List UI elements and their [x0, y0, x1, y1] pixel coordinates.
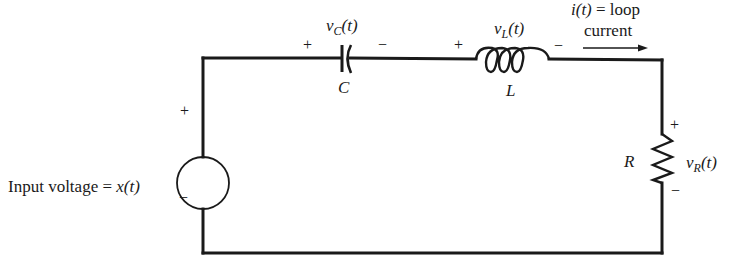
wire-top-middle — [350, 58, 476, 59]
inductor-icon — [476, 48, 549, 72]
inductor-name: L — [505, 81, 515, 100]
current-label-line2: current — [584, 21, 632, 40]
inductor-voltage-label: vL(t) — [494, 19, 525, 41]
capacitor-minus: − — [378, 36, 387, 53]
capacitor-name: C — [338, 78, 350, 97]
source-plus: + — [180, 102, 189, 119]
inductor-minus: − — [554, 37, 563, 54]
current-arrow-icon — [583, 45, 648, 52]
circuit-diagram: Input voltage = x(t) + − + vC(t) − C + v… — [0, 0, 732, 270]
resistor-icon — [653, 134, 672, 183]
capacitor-plus: + — [303, 36, 312, 53]
wires — [203, 58, 662, 253]
resistor-minus: − — [671, 182, 680, 199]
source-minus: − — [179, 189, 188, 206]
inductor-plus: + — [454, 36, 463, 53]
resistor-name: R — [623, 152, 635, 171]
resistor-voltage-label: vR(t) — [686, 153, 717, 175]
capacitor-voltage-label: vC(t) — [326, 16, 358, 38]
source-label: Input voltage = x(t) — [8, 177, 140, 196]
current-label-line1: i(t) = loop — [571, 0, 640, 19]
wire-top-right — [549, 59, 662, 60]
resistor-plus: + — [670, 116, 679, 133]
